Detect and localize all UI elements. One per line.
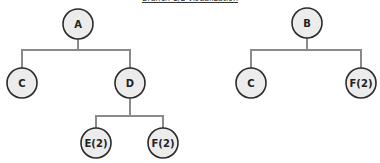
- node-label: D: [126, 78, 134, 89]
- tree-2-edges: [251, 38, 361, 68]
- node-label: A: [74, 19, 82, 30]
- node-label: E(2): [85, 138, 108, 149]
- node-f2-left: F(2): [148, 128, 178, 158]
- node-e2: E(2): [81, 128, 111, 158]
- node-c-left: C: [7, 68, 37, 98]
- node-a: A: [63, 9, 93, 39]
- node-b: B: [292, 8, 322, 38]
- node-label: F(2): [350, 78, 373, 89]
- node-d: D: [115, 68, 145, 98]
- edge-a-children: [22, 39, 130, 68]
- node-label: F(2): [152, 138, 175, 149]
- tree-diagram: A C D E(2) F(2) B C F(2): [0, 0, 380, 163]
- node-label: C: [247, 78, 254, 89]
- node-c-right: C: [236, 68, 266, 98]
- node-f2-right: F(2): [346, 68, 376, 98]
- node-label: C: [18, 78, 25, 89]
- edge-b-children: [251, 38, 361, 68]
- edge-d-children: [96, 98, 163, 128]
- node-label: B: [303, 18, 311, 29]
